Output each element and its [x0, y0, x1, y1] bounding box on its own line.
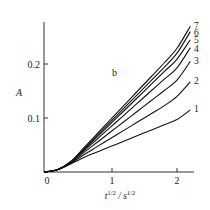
y-tick-label: 0.1 — [28, 113, 41, 124]
curve-3 — [44, 61, 190, 172]
x-tick-label: 0 — [45, 175, 50, 186]
x-tick-label: 2 — [175, 175, 180, 186]
curves-group — [44, 26, 190, 172]
curve-7 — [44, 26, 190, 172]
curve-4 — [44, 48, 190, 172]
curve-1 — [44, 110, 190, 172]
curve-label-1: 1 — [194, 104, 199, 114]
curve-label-3: 3 — [194, 56, 199, 66]
curve-5 — [44, 40, 190, 172]
y-tick-label: 0.2 — [28, 59, 41, 70]
absorbance-chart: 0.2 0.1 0 1 2 A b t1/2 / s1/2 7 6 5 4 3 … — [0, 0, 210, 210]
curve-label-2: 2 — [194, 76, 199, 86]
curve-label-4: 4 — [194, 44, 199, 54]
x-axis-title: t1/2 / s1/2 — [105, 189, 135, 201]
curve-6 — [44, 32, 190, 172]
y-axis-title: A — [15, 87, 23, 98]
panel-label: b — [112, 67, 117, 78]
x-tick-label: 1 — [110, 175, 115, 186]
